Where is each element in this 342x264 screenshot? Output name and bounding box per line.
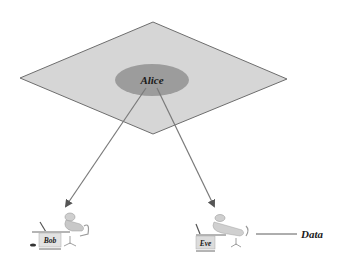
eve-workstation[interactable]: Eve bbox=[196, 215, 248, 252]
data-label: Data bbox=[300, 228, 324, 240]
bob-workstation[interactable]: Bob bbox=[30, 213, 89, 249]
person-at-desk-icon bbox=[30, 213, 89, 249]
eve-label: Eve bbox=[199, 239, 212, 248]
network-diagram: Alice Bob bbox=[0, 0, 342, 264]
alice-label: Alice bbox=[139, 74, 163, 86]
bob-label: Bob bbox=[43, 236, 57, 245]
